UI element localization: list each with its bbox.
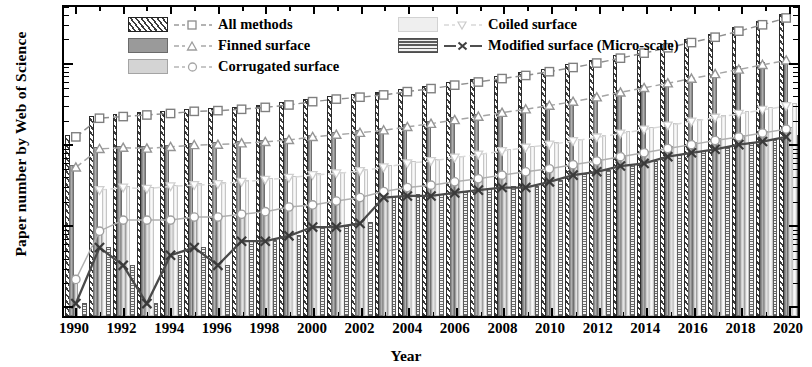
y-tick-minor <box>793 234 798 235</box>
all-methods-marker-icon <box>173 18 213 32</box>
data-point-marker <box>782 14 790 22</box>
finned-surface-marker-icon <box>173 39 213 53</box>
x-tick-major <box>313 308 315 316</box>
x-tick-major <box>170 308 172 316</box>
data-point-marker <box>119 216 127 224</box>
x-tick-top <box>170 7 172 14</box>
data-point-marker <box>261 208 269 216</box>
data-point-marker <box>166 216 174 224</box>
y-tick-minor <box>793 39 798 40</box>
y-tick-minor <box>64 239 69 240</box>
y-axis-title: Paper number by Web of Science <box>12 19 30 269</box>
y-tick-major <box>789 144 798 146</box>
y-tick-minor <box>64 106 69 107</box>
x-tick-top <box>646 7 648 14</box>
data-point-marker <box>356 93 364 101</box>
legend-label: Modified surface (Micro-scale) <box>488 37 679 54</box>
figure: Paper number by Web of Science All metho… <box>0 0 812 367</box>
x-tick-minor <box>385 312 386 316</box>
data-point-marker <box>640 149 648 157</box>
y-tick-minor <box>793 106 798 107</box>
x-tick-major <box>741 308 743 316</box>
legend-item-coiled-surface[interactable]: Coiled surface <box>398 16 728 33</box>
legend-item-modified-surface[interactable]: Modified surface (Micro-scale) <box>398 37 728 54</box>
legend-item-corrugated-surface[interactable]: Corrugated surface <box>128 58 398 75</box>
x-tick-label: 1992 <box>107 320 137 337</box>
y-tick-minor <box>64 67 69 68</box>
y-tick-minor <box>793 153 798 154</box>
x-tick-minor <box>576 312 577 316</box>
x-tick-top <box>313 7 315 14</box>
data-point-marker <box>119 261 128 270</box>
x-tick-top <box>622 7 624 11</box>
x-tick-label: 1990 <box>59 320 89 337</box>
y-tick-minor <box>64 230 69 231</box>
x-tick-minor <box>528 312 529 316</box>
y-tick-minor <box>64 39 69 40</box>
x-tick-top <box>670 7 672 11</box>
x-tick-major <box>503 308 505 316</box>
y-tick-minor <box>64 187 69 188</box>
data-point-marker <box>474 78 482 86</box>
x-tick-top <box>765 7 767 11</box>
x-tick-label: 1996 <box>202 320 232 337</box>
y-tick-minor <box>793 187 798 188</box>
data-point-marker <box>237 105 245 113</box>
x-tick-major <box>265 308 267 316</box>
x-tick-label: 2004 <box>392 320 422 337</box>
x-tick-major <box>218 308 220 316</box>
y-tick-minor <box>793 202 798 203</box>
x-tick-top <box>123 7 125 14</box>
y-tick-minor <box>793 259 798 260</box>
data-point-marker <box>95 114 103 122</box>
data-point-marker <box>735 27 743 35</box>
x-tick-top <box>361 7 363 14</box>
y-tick-major <box>64 306 73 308</box>
data-point-marker <box>72 275 80 283</box>
data-point-marker <box>687 140 695 148</box>
y-tick-minor <box>64 7 69 8</box>
x-tick-minor <box>243 312 244 316</box>
y-tick-minor <box>64 169 69 170</box>
x-tick-top <box>527 7 529 11</box>
x-tick-label: 2012 <box>583 320 613 337</box>
series-line <box>76 60 786 167</box>
y-tick-major <box>64 144 73 146</box>
data-point-marker <box>640 126 649 134</box>
data-point-marker <box>190 107 198 115</box>
x-tick-top <box>432 7 434 11</box>
finned-surface-swatch-icon <box>128 38 168 53</box>
coiled-surface-swatch-icon <box>398 17 438 32</box>
y-tick-minor <box>64 163 69 164</box>
series-line <box>100 106 787 190</box>
legend: All methods Coiled surface Finned surfac… <box>128 14 728 76</box>
y-tick-minor <box>793 149 798 150</box>
data-point-marker <box>214 106 222 114</box>
y-tick-minor <box>64 15 69 16</box>
data-point-marker <box>664 144 672 152</box>
coiled-surface-marker-icon <box>443 18 483 32</box>
data-point-marker <box>545 165 553 173</box>
y-tick-major <box>789 63 798 65</box>
data-point-marker <box>332 197 340 205</box>
data-point-marker <box>451 81 459 89</box>
legend-item-all-methods[interactable]: All methods <box>128 16 398 33</box>
y-tick-minor <box>64 76 69 77</box>
data-point-marker <box>593 157 601 165</box>
data-point-marker <box>758 106 767 114</box>
data-point-marker <box>213 261 222 270</box>
y-tick-minor <box>793 230 798 231</box>
x-tick-top <box>408 7 410 14</box>
legend-item-finned-surface[interactable]: Finned surface <box>128 37 398 54</box>
data-point-marker <box>95 243 104 252</box>
plot-area: All methods Coiled surface Finned surfac… <box>62 5 800 318</box>
series-line <box>76 129 786 279</box>
modified-surface-marker-icon <box>443 39 483 53</box>
series-corrugated-surface <box>72 125 791 284</box>
x-tick-major <box>361 308 363 316</box>
x-tick-minor <box>719 312 720 316</box>
y-tick-minor <box>64 72 69 73</box>
data-point-marker <box>782 125 790 133</box>
x-tick-label: 2008 <box>487 320 517 337</box>
data-point-marker <box>142 299 151 308</box>
